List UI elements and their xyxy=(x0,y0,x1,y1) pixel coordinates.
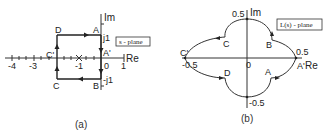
tick-label-0: 0 xyxy=(246,60,251,70)
point-label-A: A xyxy=(93,25,99,35)
re-axis-label: Re xyxy=(126,53,139,64)
point-label-A-prime: A' xyxy=(103,48,111,58)
tick-label: -1 xyxy=(75,61,83,71)
arrow-up-icon xyxy=(55,44,60,49)
tick-label: -3 xyxy=(29,61,37,71)
arrow-up-icon xyxy=(55,66,60,71)
caption-b: (b) xyxy=(241,113,253,124)
plane-label: s - plane xyxy=(119,38,143,46)
point-label-D: D xyxy=(224,68,231,78)
arrow-right-icon xyxy=(84,33,89,38)
tick-label-neg-0.5-re: -0.5 xyxy=(182,60,198,70)
contour-path xyxy=(55,33,104,82)
point-label-B: B xyxy=(266,40,272,50)
im-axis-label: Im xyxy=(104,12,115,23)
point-label-B: B xyxy=(93,81,99,91)
plane-label: L(s) - plane xyxy=(280,21,313,29)
tick-label: 0 xyxy=(104,61,109,71)
tick-label-j1: j1 xyxy=(102,33,110,43)
panel-b-L-plane: Im Re 0.5 -0.5 -0.5 0 0.5 A A' B C C' D … xyxy=(180,7,322,124)
tick-label-0.5-im: 0.5 xyxy=(232,9,245,19)
panel-a-s-plane: Im Re -4 -3 -1 0 1 j1 -j1 A A' B C C' D … xyxy=(5,12,150,130)
point-label-D: D xyxy=(55,25,62,35)
caption-a: (a) xyxy=(75,119,87,130)
point-label-A: A xyxy=(265,67,271,77)
tick-label-neg-0.5-im: -0.5 xyxy=(249,98,265,108)
arrow-left-icon xyxy=(78,77,83,82)
im-axis-label: Im xyxy=(250,7,261,18)
point-label-A-prime: A' xyxy=(297,61,305,71)
tick-label: 1 xyxy=(121,61,126,71)
point-label-C: C xyxy=(223,39,230,49)
re-axis-label: Re xyxy=(305,60,318,71)
figure: Im Re -4 -3 -1 0 1 j1 -j1 A A' B C C' D … xyxy=(0,0,332,137)
tick-label-neg-j1: -j1 xyxy=(103,75,113,85)
point-label-C-prime: C' xyxy=(46,50,54,60)
point-label-C-prime: C' xyxy=(180,48,188,58)
arrow-down-icon xyxy=(99,69,104,74)
point-label-C: C xyxy=(53,81,60,91)
tick-label-0.5-re: 0.5 xyxy=(296,47,309,57)
tick-label: -4 xyxy=(8,61,16,71)
